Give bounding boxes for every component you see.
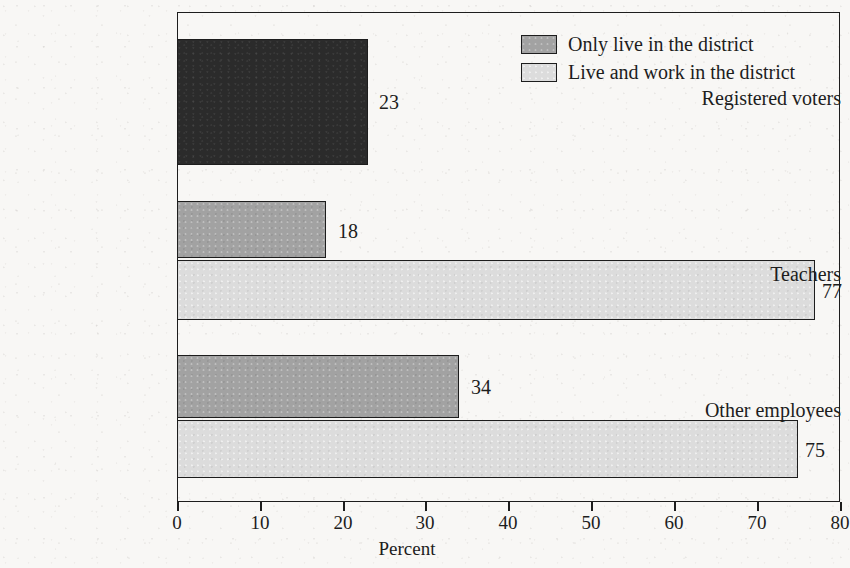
x-tick-label-60: 60 [665,513,684,532]
x-tick-label-30: 30 [416,513,435,532]
bar-23 [177,39,368,165]
x-tick-label-50: 50 [582,513,601,532]
x-tick-label-20: 20 [334,513,353,532]
bar-18 [177,201,326,258]
x-tick-mark-30 [425,502,427,511]
x-tick-label-70: 70 [748,513,767,532]
x-tick-mark-80 [840,502,842,511]
legend-label-1: Live and work in the district [568,62,795,82]
x-tick-mark-70 [757,502,759,511]
x-axis-title: Percent [0,539,850,558]
bar-value-label-23: 23 [379,92,399,112]
category-label-2: Other employees [682,400,850,420]
x-tick-label-40: 40 [499,513,518,532]
chart-legend: Only live in the districtLive and work i… [521,30,795,86]
x-tick-mark-40 [508,502,510,511]
bar-value-label-18: 18 [338,221,358,241]
x-tick-label-0: 0 [172,513,182,532]
legend-swatch-icon-1 [521,63,557,82]
category-label-0: Registered voters [682,88,850,108]
x-tick-label-10: 10 [251,513,270,532]
x-tick-mark-0 [177,502,179,511]
bar-75 [177,420,798,478]
legend-swatch-icon-0 [521,35,557,54]
bar-value-label-34: 34 [471,377,491,397]
legend-item-0: Only live in the district [521,30,795,58]
horizontal-bar-chart: 2318773475 Registered votersTeachersOthe… [0,0,850,568]
x-tick-mark-20 [343,502,345,511]
x-tick-mark-10 [260,502,262,511]
category-label-1: Teachers [682,264,850,284]
legend-label-0: Only live in the district [568,34,754,54]
x-tick-label-80: 80 [831,513,850,532]
bar-value-label-75: 75 [805,440,825,460]
x-tick-mark-50 [591,502,593,511]
bar-34 [177,355,459,418]
x-axis-title-text: Percent [379,538,436,559]
x-tick-mark-60 [674,502,676,511]
legend-item-1: Live and work in the district [521,58,795,86]
